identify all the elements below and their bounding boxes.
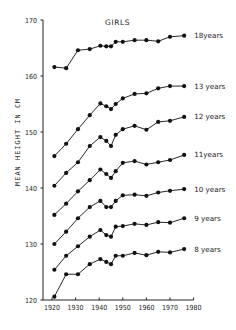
data-point <box>104 139 108 143</box>
data-point <box>144 253 148 257</box>
data-point <box>76 272 80 276</box>
data-point <box>182 187 186 191</box>
data-point <box>64 171 68 175</box>
data-point <box>156 39 160 43</box>
data-point <box>109 205 113 209</box>
data-point <box>156 190 160 194</box>
data-point <box>76 48 80 52</box>
data-point <box>109 107 113 111</box>
data-point <box>182 247 186 251</box>
data-point <box>133 38 137 42</box>
data-point <box>121 193 125 197</box>
data-point <box>168 84 172 88</box>
data-point <box>156 160 160 164</box>
x-tick-label: 1960 <box>138 304 154 312</box>
data-point <box>156 220 160 224</box>
y-tick-label: 140 <box>25 185 37 193</box>
data-point <box>104 260 108 264</box>
data-point <box>52 154 56 158</box>
data-point <box>114 254 118 258</box>
y-tick-label: 150 <box>25 129 37 137</box>
height-chart: GIRLS MEAN HEIGHT IN CM 1201301401501601… <box>0 0 236 330</box>
series-label: 9 years <box>194 214 221 223</box>
data-point <box>121 224 125 228</box>
x-tick-label: 1930 <box>68 304 84 312</box>
data-point <box>109 176 113 180</box>
x-tick-label: 1940 <box>91 304 107 312</box>
y-tick-label: 130 <box>25 241 37 249</box>
data-point <box>76 216 80 220</box>
data-point <box>133 193 137 197</box>
data-point <box>133 159 137 163</box>
series-label: 18years <box>194 31 223 40</box>
data-point <box>64 202 68 206</box>
series-label: 11years <box>194 150 223 159</box>
data-point <box>182 153 186 157</box>
data-point <box>76 160 80 164</box>
data-point <box>64 254 68 258</box>
data-point <box>144 91 148 95</box>
data-point <box>64 272 68 276</box>
data-point <box>121 254 125 258</box>
data-point <box>98 199 102 203</box>
data-point <box>98 44 102 48</box>
data-point <box>64 142 68 146</box>
data-point <box>104 104 108 108</box>
data-point <box>109 262 113 266</box>
data-point <box>168 250 172 254</box>
data-point <box>64 66 68 70</box>
data-point <box>109 144 113 148</box>
data-point <box>88 144 92 148</box>
data-point <box>109 235 113 239</box>
data-point <box>98 257 102 261</box>
data-point <box>168 119 172 123</box>
x-tick-label: 1950 <box>115 304 131 312</box>
data-point <box>114 102 118 106</box>
data-point <box>104 172 108 176</box>
data-point <box>104 205 108 209</box>
series-line <box>54 189 184 244</box>
data-point <box>168 35 172 39</box>
data-point <box>98 228 102 232</box>
data-point <box>52 184 56 188</box>
data-point <box>88 113 92 117</box>
data-point <box>98 135 102 139</box>
data-point <box>64 230 68 234</box>
x-tick-label: 1970 <box>162 304 178 312</box>
data-point <box>133 124 137 128</box>
data-point <box>76 127 80 131</box>
data-point <box>168 189 172 193</box>
data-point <box>114 169 118 173</box>
data-point <box>156 86 160 90</box>
data-point <box>52 65 56 69</box>
series-group: 18years13 years12 years11years10 years9 … <box>52 31 225 299</box>
series-label: 8 years <box>194 245 221 254</box>
data-point <box>114 199 118 203</box>
y-tick-label: 160 <box>25 73 37 81</box>
data-point <box>114 225 118 229</box>
data-point <box>76 189 80 193</box>
data-point <box>156 250 160 254</box>
series-18-years: 18years <box>52 31 223 70</box>
data-point <box>98 167 102 171</box>
data-point <box>144 128 148 132</box>
data-point <box>88 262 92 266</box>
data-point <box>121 40 125 44</box>
data-point <box>168 158 172 162</box>
data-point <box>144 223 148 227</box>
data-point <box>121 161 125 165</box>
data-point <box>114 133 118 137</box>
series-label: 10 years <box>194 185 225 194</box>
data-point <box>88 47 92 51</box>
data-point <box>88 235 92 239</box>
data-point <box>133 251 137 255</box>
series-8-years: 8 years <box>52 245 221 299</box>
series-label: 13 years <box>194 82 225 91</box>
data-point <box>52 242 56 246</box>
y-tick-label: 120 <box>25 297 37 305</box>
series-label: 12 years <box>194 112 225 121</box>
y-axis-label: MEAN HEIGHT IN CM <box>14 98 22 186</box>
data-point <box>144 194 148 198</box>
data-point <box>144 162 148 166</box>
chart-title: GIRLS <box>105 18 130 27</box>
